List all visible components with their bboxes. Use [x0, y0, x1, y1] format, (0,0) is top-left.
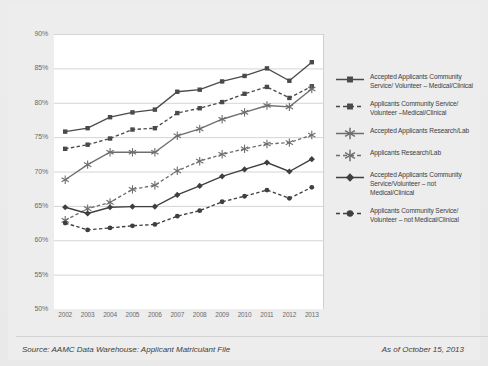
y-axis-tick-label: 70%: [8, 168, 48, 175]
legend-item[interactable]: Applicants Community Service/ Volunteer …: [335, 99, 477, 117]
y-axis-tick-label: 90%: [8, 30, 48, 37]
data-point-marker: [241, 108, 248, 116]
chart-series: [63, 185, 314, 232]
x-axis-tick-label: 2006: [148, 311, 162, 318]
data-point-marker: [174, 167, 181, 175]
x-axis-tick-label: 2011: [260, 311, 273, 318]
data-point-marker: [309, 185, 314, 190]
data-point-marker: [198, 106, 202, 110]
data-point-marker: [219, 173, 225, 179]
data-point-marker: [63, 147, 67, 151]
data-point-marker: [85, 228, 90, 233]
data-point-marker: [196, 125, 203, 133]
plot-area: [54, 34, 324, 309]
data-point-marker: [85, 126, 89, 130]
data-point-marker: [62, 176, 69, 184]
data-point-marker: [308, 85, 315, 93]
x-axis-tick-label: 2008: [193, 311, 207, 318]
circle-marker-icon: [335, 206, 365, 219]
x-axis-tick-label: 2004: [103, 311, 117, 318]
data-point-marker: [347, 210, 353, 216]
data-point-marker: [347, 104, 353, 110]
data-point-marker: [218, 115, 225, 123]
data-point-marker: [220, 100, 224, 104]
chart-lines: [54, 34, 323, 309]
data-point-marker: [152, 203, 158, 209]
chart-series: [63, 84, 314, 151]
x-axis-tick-label: 2012: [283, 311, 297, 318]
data-point-marker: [265, 85, 269, 89]
y-axis-tick-label: 85%: [8, 64, 48, 71]
x-axis-tick-label: 2007: [170, 311, 184, 318]
series-line: [65, 86, 312, 149]
chart-series: [62, 156, 315, 217]
data-point-marker: [108, 115, 112, 119]
chart-legend: Accepted Applicants Community Service/ V…: [335, 72, 477, 233]
data-point-marker: [174, 132, 181, 140]
x-axis-tick-label: 2013: [305, 311, 319, 318]
data-point-marker: [286, 168, 292, 174]
legend-label: Applicants Research/Lab: [370, 148, 441, 158]
page-background: 90%85%80%75%70%65%60%55%50% 200220032004…: [0, 0, 488, 366]
data-point-marker: [84, 160, 91, 168]
source-note: Source: AAMC Data Warehouse: Applicant M…: [22, 345, 230, 354]
data-point-marker: [242, 92, 246, 96]
series-line: [65, 159, 312, 213]
data-point-marker: [130, 223, 135, 228]
data-point-marker: [346, 174, 354, 182]
data-point-marker: [175, 90, 179, 94]
legend-item[interactable]: Accepted Applicants Research/Lab: [335, 126, 477, 139]
chart-series: [62, 85, 316, 184]
y-axis-tick-label: 60%: [8, 236, 48, 243]
data-point-marker: [108, 225, 113, 230]
footer-divider: [16, 336, 488, 337]
data-point-marker: [287, 79, 291, 83]
data-point-marker: [85, 142, 89, 146]
legend-item[interactable]: Applicants Community Service/ Volunteer …: [335, 206, 477, 224]
chart-series: [63, 60, 314, 134]
legend-label: Applicants Community Service/ Volunteer …: [370, 206, 477, 224]
data-point-marker: [347, 77, 353, 83]
data-point-marker: [242, 194, 247, 199]
data-point-marker: [129, 203, 135, 209]
x-axis-tick-label: 2003: [81, 311, 95, 318]
data-point-marker: [197, 183, 203, 189]
legend-item[interactable]: Accepted Applicants Community Service/Vo…: [335, 170, 477, 197]
x-axis: 2002200320042005200620072008200920102011…: [54, 311, 323, 325]
diamond-marker-icon: [335, 170, 365, 183]
series-line: [65, 187, 312, 230]
legend-item[interactable]: Applicants Research/Lab: [335, 148, 477, 161]
data-point-marker: [108, 136, 112, 140]
data-point-marker: [175, 214, 180, 219]
data-point-marker: [175, 111, 179, 115]
asterisk-marker-icon: [335, 126, 365, 139]
y-axis-tick-label: 50%: [8, 305, 48, 312]
as-of-note: As of October 15, 2013: [382, 345, 464, 354]
data-point-marker: [63, 221, 68, 226]
data-point-marker: [152, 222, 157, 227]
data-point-marker: [107, 204, 113, 210]
series-line: [65, 62, 312, 131]
legend-label: Accepted Applicants Research/Lab: [370, 126, 469, 136]
data-point-marker: [174, 192, 180, 198]
data-point-marker: [264, 159, 270, 165]
data-point-marker: [242, 74, 246, 78]
data-point-marker: [62, 204, 68, 210]
y-axis-tick-label: 80%: [8, 99, 48, 106]
data-point-marker: [220, 199, 225, 204]
y-axis-tick-label: 55%: [8, 271, 48, 278]
legend-label: Accepted Applicants Community Service/ V…: [370, 72, 477, 90]
series-line: [65, 135, 312, 220]
data-point-marker: [287, 96, 291, 100]
x-axis-tick-label: 2009: [215, 311, 229, 318]
data-point-marker: [310, 60, 314, 64]
data-point-marker: [63, 129, 67, 133]
x-axis-tick-label: 2005: [126, 311, 140, 318]
legend-item[interactable]: Accepted Applicants Community Service/ V…: [335, 72, 477, 90]
x-axis-tick-label: 2010: [238, 311, 252, 318]
data-point-marker: [287, 196, 292, 201]
data-point-marker: [130, 127, 134, 131]
data-point-marker: [153, 126, 157, 130]
asterisk-marker-icon: [335, 148, 365, 161]
y-axis-tick-label: 75%: [8, 133, 48, 140]
